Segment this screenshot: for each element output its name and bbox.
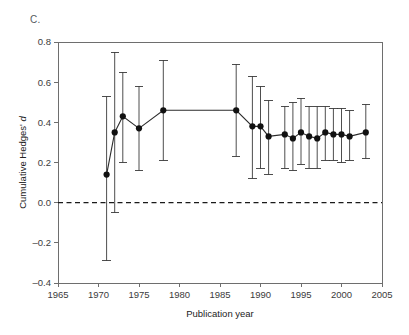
data-point-marker [249,123,255,129]
y-tick-label: –0.4 [33,277,52,288]
data-point-marker [136,125,142,131]
y-tick-label: 0.2 [38,157,51,168]
data-point-marker [233,107,239,113]
error-bar [102,96,110,261]
chart-page: C. –0.4–0.20.00.20.40.60.819651970197519… [0,0,409,335]
y-tick-label: –0.2 [33,237,52,248]
data-point-marker [120,113,126,119]
x-tick-label: 1970 [88,289,109,300]
data-point-marker [104,171,110,177]
data-point-marker [363,129,369,135]
data-point-marker [112,129,118,135]
data-point-marker [298,129,304,135]
data-point-marker [306,133,312,139]
x-tick-label: 1965 [47,289,68,300]
y-tick-label: 0.4 [38,117,51,128]
x-tick-label: 1980 [169,289,190,300]
data-point-marker [347,133,353,139]
data-point-marker [160,107,166,113]
y-axis-title: Cumulative Hedges' d [17,115,28,208]
x-tick-label: 2000 [331,289,352,300]
y-tick-label: 0.8 [38,36,51,47]
data-point-marker [314,135,320,141]
x-axis-title: Publication year [186,308,254,319]
y-axis-title-text: Cumulative Hedges' d [17,115,28,208]
data-point-marker [282,131,288,137]
data-point-marker [257,123,263,129]
x-tick-label: 2005 [371,289,392,300]
data-point-marker [338,131,344,137]
data-point-marker [330,131,336,137]
y-tick-label: 0.0 [38,197,51,208]
x-tick-label: 1995 [290,289,311,300]
y-tick-label: 0.6 [38,77,51,88]
data-point-marker [322,129,328,135]
x-tick-label: 1990 [250,289,271,300]
cumulative-meta-analysis-chart: –0.4–0.20.00.20.40.60.819651970197519801… [0,0,409,335]
data-point-marker [266,133,272,139]
data-point-marker [290,135,296,141]
x-tick-label: 1975 [128,289,149,300]
x-tick-label: 1985 [209,289,230,300]
